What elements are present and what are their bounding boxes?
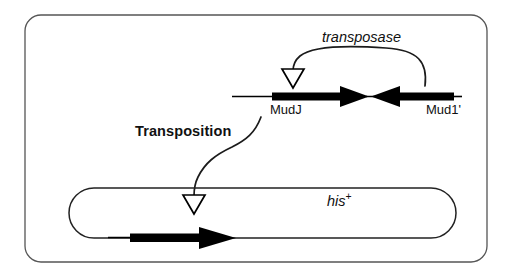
transposase-label: transposase [322, 30, 401, 45]
his-plus-label-base: his [327, 193, 346, 209]
mudj-label: MudJ [270, 103, 302, 116]
transposition-label: Transposition [135, 124, 231, 139]
his-plus-plasmid-stadium [69, 188, 456, 238]
outer-panel-border [25, 15, 487, 262]
diagram-canvas [0, 0, 511, 277]
his-plus-label: his+ [327, 194, 352, 209]
transposition-diagram-figure: transposase MudJ Mud1' Transposition his… [0, 0, 511, 277]
his-plus-label-superscript: + [346, 191, 352, 202]
transposase-hollow-arrowhead [282, 69, 304, 88]
plasmid-inserted-element-arrow [108, 227, 236, 249]
transposition-hollow-arrowhead [183, 195, 205, 214]
mud1-label: Mud1' [426, 103, 461, 116]
transposase-curved-arrow [293, 47, 426, 86]
